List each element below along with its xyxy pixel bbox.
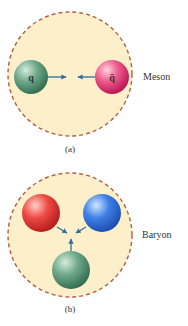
quark-diagram: q q̄ Meson (a) Baryon (b) [0, 0, 188, 326]
green-quark-sphere [52, 251, 90, 289]
meson-label: Meson [143, 71, 170, 82]
quark-symbol: q [28, 72, 34, 83]
caption-a: (a) [65, 144, 75, 154]
meson-panel: q q̄ Meson (a) [8, 12, 170, 154]
baryon-panel: Baryon (b) [8, 173, 171, 314]
baryon-label: Baryon [142, 229, 171, 240]
quark-sphere: q [14, 60, 48, 94]
caption-b: (b) [65, 304, 76, 314]
antiquark-sphere: q̄ [95, 60, 129, 94]
blue-quark-sphere [83, 194, 121, 232]
red-quark-sphere [22, 194, 60, 232]
antiquark-symbol: q̄ [109, 72, 115, 83]
